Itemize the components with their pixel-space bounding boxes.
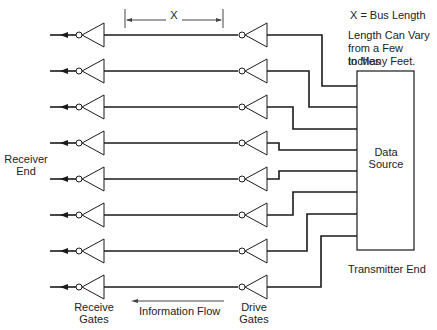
receive-gate-bubble-icon [76,140,82,146]
legend-definition: X = Bus Length [350,9,426,22]
source-wire [267,107,357,129]
receive-gate-bubble-icon [76,104,82,110]
receiver-end-label-2: End [4,165,48,178]
source-wire [267,71,357,107]
source-wire [267,35,357,86]
drive-gate-bubble-icon [239,212,245,218]
receive-gate-bubble-icon [76,32,82,38]
drive-gate-triangle-icon [245,59,267,83]
drive-gate-triangle-icon [245,95,267,119]
source-wire [267,192,357,215]
receive-gate-triangle-icon [82,203,104,227]
output-arrow-icon [60,104,68,110]
drive-gate-bubble-icon [239,284,245,290]
source-wire [267,236,357,287]
drive-gate-triangle-icon [245,23,267,47]
drive-gate-bubble-icon [239,68,245,74]
output-arrow-icon [60,284,68,290]
receive-gate-bubble-icon [76,68,82,74]
receive-gates-label-2: Gates [70,313,118,326]
bus-diagram: X X = Bus Length Length Can Vary from a … [0,0,437,330]
drive-gates-label-2: Gates [232,313,276,326]
drive-gate-triangle-icon [245,275,267,299]
drive-gate-triangle-icon [245,203,267,227]
drive-gate-bubble-icon [239,104,245,110]
data-source-label-2: Source [357,158,415,171]
receive-gate-triangle-icon [82,95,104,119]
legend-note-3: to Many Feet. [348,55,415,68]
output-arrow-icon [60,176,68,182]
output-arrow-icon [60,68,68,74]
drive-gate-triangle-icon [245,167,267,191]
legend-note-1: Length Can Vary [348,29,430,42]
output-arrow-icon [60,248,68,254]
receive-gate-bubble-icon [76,284,82,290]
receive-gate-bubble-icon [76,248,82,254]
output-arrow-icon [60,140,68,146]
drive-gate-bubble-icon [239,176,245,182]
source-wire [267,171,357,179]
output-arrow-icon [60,212,68,218]
receive-gate-bubble-icon [76,212,82,218]
receive-gate-triangle-icon [82,167,104,191]
transmitter-end-label: Transmitter End [348,263,426,276]
drive-gate-bubble-icon [239,140,245,146]
source-wire [267,214,357,251]
receive-gate-triangle-icon [82,131,104,155]
receive-gate-triangle-icon [82,275,104,299]
receive-gate-triangle-icon [82,59,104,83]
information-flow-arrow-icon [131,299,138,303]
drive-gate-bubble-icon [239,32,245,38]
drive-gate-bubble-icon [239,248,245,254]
drive-gate-triangle-icon [245,131,267,155]
output-arrow-icon [60,32,68,38]
bus-length-label: X [124,9,224,22]
drive-gate-triangle-icon [245,239,267,263]
source-wire [267,143,357,150]
receive-gate-triangle-icon [82,23,104,47]
receive-gate-triangle-icon [82,239,104,263]
receive-gate-bubble-icon [76,176,82,182]
information-flow-label: Information Flow [139,305,220,318]
